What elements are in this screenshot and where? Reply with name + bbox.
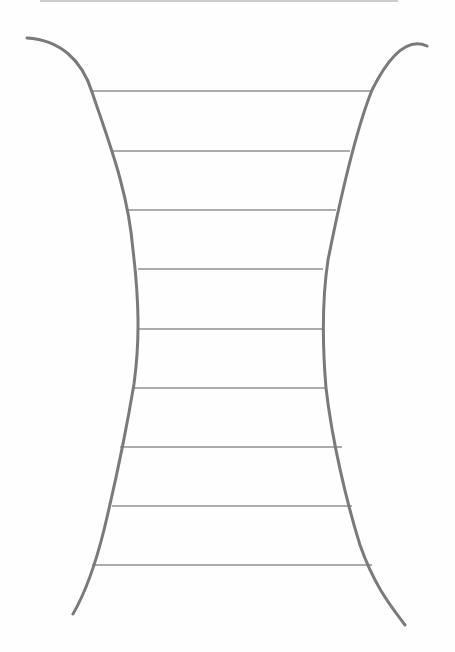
sketch-canvas: Hand-drawn pencil sketch of a concave-si…	[0, 0, 455, 652]
right-outline-curve	[323, 44, 427, 625]
rungs-group	[90, 91, 372, 565]
left-outline-curve	[27, 38, 138, 614]
hourglass-sketch	[0, 0, 455, 652]
